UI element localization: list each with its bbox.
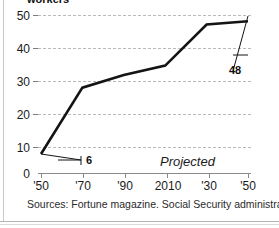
value-label-6: 6	[86, 155, 92, 166]
source-note: Sources: Fortune magazine. Social Securi…	[27, 199, 279, 210]
chart-figure: workers 50 40 30 20 10 0 '50 '70 '90 201…	[0, 0, 279, 228]
leader-line-48	[233, 16, 248, 71]
series-line-workers	[41, 21, 248, 154]
leader-line-6	[41, 154, 81, 165]
projected-label: Projected	[160, 155, 215, 168]
value-label-48: 48	[229, 65, 241, 76]
series-layer	[0, 0, 279, 228]
